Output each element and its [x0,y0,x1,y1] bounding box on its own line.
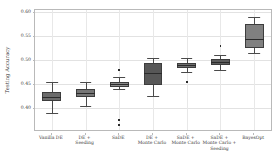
median-line [76,93,95,94]
outlier-point [118,69,120,71]
outlier-point [220,45,222,47]
whisker-upper [254,17,255,24]
whisker-lower [52,101,53,113]
cap-upper [181,58,193,59]
boxplot-box [245,10,264,130]
y-tick-label: 0.55 [21,33,31,38]
boxplot-box [76,10,95,130]
boxplot-box [177,10,196,130]
median-line [211,62,230,63]
median-line [245,39,264,40]
cap-upper [80,82,92,83]
cap-lower [215,70,227,71]
y-tick-mark [33,84,35,85]
plot-inner [35,10,271,130]
y-tick-label: 0.40 [21,105,31,110]
median-line [42,97,61,98]
whisker-upper [86,82,87,89]
outlier-point [186,81,188,83]
cap-upper [113,77,125,78]
y-axis-title: Testing Accuracy [4,47,10,94]
cap-upper [215,55,227,56]
y-tick-mark [33,60,35,61]
cap-upper [147,58,159,59]
boxplot-figure: Testing Accuracy 0.400.450.500.550.60 Va… [0,0,276,164]
y-tick-label: 0.45 [21,81,31,86]
median-line [110,84,129,85]
plot-area [34,9,272,131]
y-tick-mark [33,12,35,13]
y-tick-mark [33,108,35,109]
box-iqr [245,24,264,48]
boxplot-box [211,10,230,130]
outlier-point [118,124,120,126]
boxplot-box [144,10,163,130]
cap-lower [147,96,159,97]
cap-lower [248,53,260,54]
cap-upper [46,82,58,83]
outlier-point [118,119,120,121]
median-line [177,65,196,66]
cap-upper [248,17,260,18]
y-tick-label: 0.50 [21,57,31,62]
cap-lower [113,89,125,90]
cap-lower [181,72,193,73]
boxplot-box [42,10,61,130]
cap-lower [80,106,92,107]
whisker-lower [86,97,87,106]
cap-lower [46,113,58,114]
whisker-lower [153,85,154,97]
median-line [144,73,163,74]
x-axis-tick-labels: Vanilla DEDE + SeedingSaDEDE + Monte Car… [34,133,272,164]
whisker-upper [52,82,53,92]
x-tick-label: BayesOpt [232,135,274,140]
y-tick-mark [33,36,35,37]
y-tick-label: 0.60 [21,9,31,14]
boxplot-box [110,10,129,130]
